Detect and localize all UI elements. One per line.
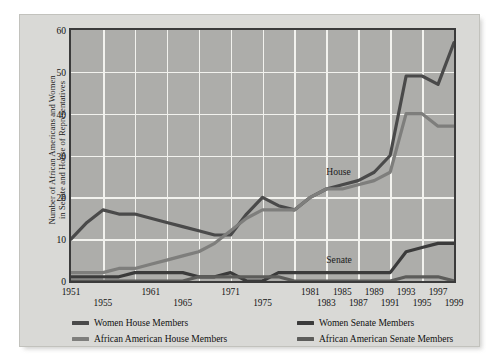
annotation-senate: Senate (326, 254, 352, 265)
plot-inner: HouseSenate (71, 30, 454, 281)
x-tick-1951: 1951 (62, 287, 81, 297)
legend-swatch-icon-3 (297, 337, 314, 342)
legend-label-0: Women House Members (94, 318, 188, 329)
legend-item-2: African American House Members (72, 331, 297, 347)
legend-label-1: Women Senate Members (319, 318, 414, 329)
legend-swatch-icon-0 (72, 321, 89, 326)
y-tick-0: 0 (61, 276, 66, 287)
series-lines (71, 30, 454, 281)
x-tick-1993: 1993 (397, 287, 416, 297)
legend-item-1: Women Senate Members (297, 315, 472, 331)
y-tick-30: 30 (56, 150, 66, 161)
series-line-1 (71, 114, 454, 273)
annotation-house: House (326, 166, 351, 177)
x-tick-1995: 1995 (413, 298, 432, 308)
chart-legend: Women House MembersWomen Senate MembersA… (72, 315, 472, 347)
x-tick-1999: 1999 (445, 298, 464, 308)
y-tick-50: 50 (56, 66, 66, 77)
x-tick-1991: 1991 (381, 298, 400, 308)
x-tick-1971: 1971 (221, 287, 240, 297)
figure-card: Number of African Americans and Women in… (19, 14, 480, 347)
legend-item-0: Women House Members (72, 315, 297, 331)
x-tick-1965: 1965 (173, 298, 192, 308)
legend-label-2: African American House Members (94, 334, 227, 345)
plot-area: HouseSenate 0102030405060 (69, 28, 456, 283)
legend-swatch-icon-2 (72, 337, 89, 342)
y-tick-40: 40 (56, 108, 66, 119)
x-tick-1989: 1989 (365, 287, 384, 297)
y-tick-20: 20 (56, 192, 66, 203)
x-tick-1987: 1987 (349, 298, 368, 308)
legend-swatch-icon-1 (297, 321, 314, 326)
x-tick-1981: 1981 (301, 287, 320, 297)
x-tick-1975: 1975 (253, 298, 272, 308)
x-tick-1997: 1997 (429, 287, 448, 297)
x-tick-1985: 1985 (333, 287, 352, 297)
figure-root: Number of African Americans and Women in… (0, 0, 495, 362)
legend-item-3: African American Senate Members (297, 331, 472, 347)
x-tick-1955: 1955 (94, 298, 113, 308)
legend-label-3: African American Senate Members (319, 334, 453, 345)
x-tick-1961: 1961 (141, 287, 160, 297)
y-tick-60: 60 (56, 25, 66, 36)
y-tick-10: 10 (56, 234, 66, 245)
x-tick-1983: 1983 (317, 298, 336, 308)
